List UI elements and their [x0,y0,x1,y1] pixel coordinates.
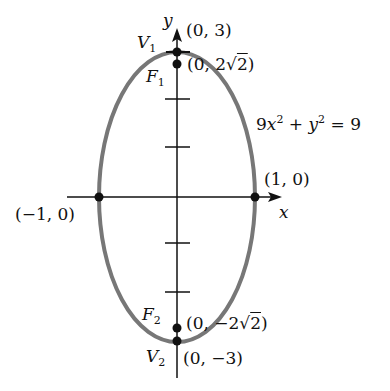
v1-point [173,48,182,57]
right-vertex-point [251,193,260,202]
f2-point [173,324,182,333]
right-vertex-coord: (1, 0) [264,171,310,188]
x-axis-label: x [279,204,289,221]
v2-label: V2 [146,348,165,368]
left-vertex-point [95,193,104,202]
v1-label: V1 [137,34,156,54]
v2-point [173,337,182,346]
y-axis-label: y [163,12,173,29]
ellipse-diagram: y x V1 (0, 3) F1 (0, 2√2) 9x2 + y2 = 9 (… [0,0,390,391]
v1-coord: (0, 3) [186,22,232,39]
f2-coord: (0, −2√2) [186,315,268,332]
f1-label: F1 [146,68,165,88]
f1-coord: (0, 2√2) [187,56,254,73]
f2-label: F2 [142,306,161,326]
v2-coord: (0, −3) [183,350,243,367]
f1-point [173,60,182,69]
equation-label: 9x2 + y2 = 9 [256,114,361,133]
left-vertex-coord: (−1, 0) [15,206,75,223]
